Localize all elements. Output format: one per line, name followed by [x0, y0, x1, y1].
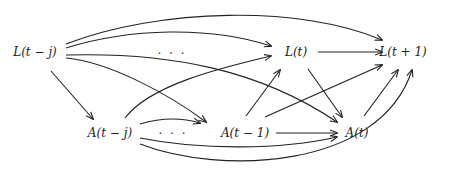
ellipsis-bottom: · · · — [158, 127, 187, 141]
causal-diagram: L(t − j) · · · L(t) L(t + 1) A(t − j) · … — [0, 0, 452, 169]
node-L-t-minus-j: L(t − j) — [13, 45, 57, 59]
edge-Atj-Lt1 — [140, 70, 412, 161]
node-A-t-minus-1: A(t − 1) — [221, 126, 269, 140]
edge-At1-Lt — [246, 70, 280, 116]
node-L-t: L(t) — [285, 45, 307, 59]
edge-Ltj-At — [66, 55, 337, 122]
node-A-t: A(t) — [346, 126, 369, 140]
edge-Atj-At1 — [140, 119, 200, 124]
edge-Ltj-Atj — [51, 71, 93, 119]
edge-Ltj-Lt1 — [66, 15, 382, 44]
node-A-t-minus-j: A(t − j) — [88, 126, 132, 140]
node-L-t-plus-1: L(t + 1) — [379, 45, 426, 59]
edge-At-Lt1 — [364, 70, 398, 116]
edge-Lt-At — [308, 69, 342, 117]
edges-layer — [0, 0, 452, 169]
ellipsis-top: · · · — [157, 47, 186, 61]
